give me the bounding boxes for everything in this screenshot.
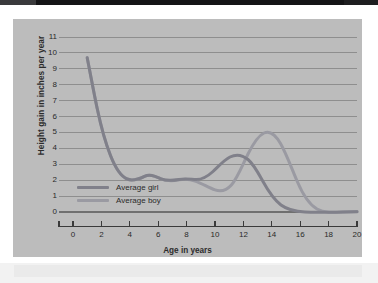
x-tick-label: 16 [291, 231, 309, 239]
legend-swatch-average-girl [77, 186, 109, 189]
x-tick-label: 12 [234, 231, 252, 239]
y-tick-label: 3 [41, 160, 57, 168]
legend-label-average-girl: Average girl [116, 182, 159, 193]
y-tick-label: 10 [41, 49, 57, 57]
gridlines [59, 37, 357, 196]
y-tick-label: 6 [41, 113, 57, 121]
y-tick-label: 5 [41, 128, 57, 136]
plot-area: Height gain in inches per year [13, 19, 362, 257]
x-tick-label: 4 [121, 231, 139, 239]
x-tick-label: 0 [64, 231, 82, 239]
y-tick-label: 2 [41, 176, 57, 184]
page-bottom-margin [0, 263, 378, 283]
y-tick-label: 11 [41, 33, 57, 41]
y-tick-label: 9 [41, 65, 57, 73]
x-tick-label: 2 [92, 231, 110, 239]
x-tick-label: 8 [178, 231, 196, 239]
y-tick-label: 7 [41, 97, 57, 105]
x-axis-label: Age in years [13, 246, 362, 255]
y-tick-label: 0 [41, 208, 57, 216]
x-axis-ticks [59, 221, 357, 227]
y-tick-label: 4 [41, 144, 57, 152]
chart-panel: Height gain in inches per year [13, 19, 362, 257]
scan-artifact [14, 265, 362, 277]
chart-svg [13, 19, 362, 257]
x-tick-label: 6 [149, 231, 167, 239]
x-tick-label: 10 [206, 231, 224, 239]
x-tick-label: 18 [320, 231, 338, 239]
y-tick-label: 1 [41, 192, 57, 200]
x-tick-label: 14 [263, 231, 281, 239]
y-tick-label: 8 [41, 81, 57, 89]
screenshot-root: Height gain in inches per year [0, 0, 378, 283]
legend-label-average-boy: Average boy [116, 195, 161, 206]
x-tick-label: 20 [348, 231, 366, 239]
legend-swatch-average-boy [77, 199, 109, 202]
page-surface: Height gain in inches per year [0, 5, 378, 263]
